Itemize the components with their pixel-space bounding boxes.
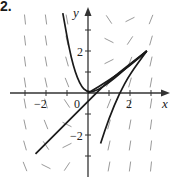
slope-segment bbox=[150, 57, 152, 67]
y-tick-label-2: 2 bbox=[77, 45, 83, 59]
slope-segment bbox=[150, 141, 151, 151]
slope-segment bbox=[150, 78, 152, 88]
slope-segment bbox=[129, 141, 131, 151]
slope-segment bbox=[66, 57, 69, 67]
slope-segment bbox=[149, 15, 153, 24]
slope-segment bbox=[64, 162, 70, 170]
y-axis-arrow-icon bbox=[85, 7, 92, 16]
slope-segment bbox=[24, 141, 27, 151]
slope-segment bbox=[24, 99, 26, 109]
x-tick-label-2: 2 bbox=[126, 97, 132, 111]
slope-segment bbox=[129, 78, 132, 88]
slope-segment bbox=[42, 164, 51, 168]
slope-segment bbox=[107, 99, 111, 108]
slope-segment bbox=[108, 141, 110, 151]
slope-segment bbox=[24, 36, 25, 46]
slope-segment bbox=[45, 15, 46, 25]
slope-segment bbox=[24, 57, 25, 67]
x-tick-label-0: 0 bbox=[74, 97, 80, 111]
slope-segment bbox=[24, 78, 26, 88]
x-tick-label-neg2: −2 bbox=[34, 97, 47, 111]
slope-segment bbox=[64, 99, 70, 107]
slope-segment bbox=[129, 162, 130, 172]
slope-segment bbox=[45, 78, 47, 88]
slope-segment bbox=[65, 78, 69, 87]
slope-segment bbox=[129, 120, 131, 130]
direction-field-chart: x y −2 0 2 2 −2 bbox=[0, 0, 171, 177]
slope-segment bbox=[45, 57, 47, 67]
slope-segment bbox=[45, 36, 47, 46]
solution-curve bbox=[63, 13, 147, 92]
slope-segment bbox=[126, 17, 135, 21]
slope-segment bbox=[150, 162, 151, 172]
slope-segment bbox=[66, 15, 68, 25]
slope-segment bbox=[150, 36, 153, 46]
slope-segment bbox=[63, 143, 72, 147]
slope-segment bbox=[106, 15, 112, 23]
slope-segment bbox=[24, 120, 26, 130]
slope-segment bbox=[23, 162, 27, 171]
slope-segment bbox=[105, 38, 114, 42]
y-tick-label-neg2: −2 bbox=[70, 129, 83, 143]
slope-segment bbox=[108, 162, 110, 172]
slope-segment bbox=[150, 120, 151, 130]
slope-segment bbox=[44, 120, 48, 129]
slope-segment bbox=[105, 59, 114, 63]
y-axis-label: y bbox=[71, 5, 79, 20]
solution-curve bbox=[101, 51, 147, 143]
slope-segment bbox=[150, 99, 152, 109]
slope-segment bbox=[24, 15, 25, 25]
slope-segment bbox=[127, 36, 133, 44]
x-axis-label: x bbox=[161, 96, 168, 111]
